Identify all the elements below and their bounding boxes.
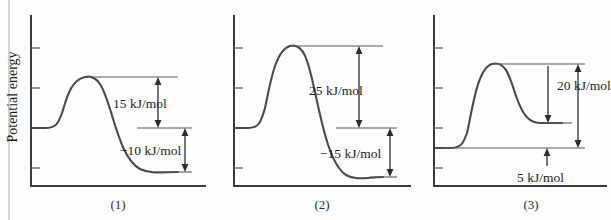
panel-3-activation-arrowhead-down [575, 140, 582, 148]
panel-2-delta-arrowhead-up [387, 128, 394, 136]
panel-1-activation-arrowhead-down [155, 120, 162, 128]
energy-diagram-svg: Potential energy 15 kJ/mol [0, 0, 611, 220]
panel-2-delta-arrowhead-down [387, 169, 394, 177]
panel-3-activation-arrowhead-up [575, 64, 582, 72]
panel-3: 20 kJ/mol 5 kJ/mol (3) [434, 16, 611, 212]
panel-3-activation-label: 20 kJ/mol [557, 78, 611, 93]
panel-1-caption: (1) [110, 197, 125, 212]
panel-3-axes [434, 16, 606, 186]
panel-3-caption: (3) [523, 197, 538, 212]
panel-1-delta-arrowhead-up [182, 128, 189, 136]
panel-1-activation-label: 15 kJ/mol [113, 96, 167, 111]
panel-1-delta-label: −10 kJ/mol [120, 143, 181, 158]
energy-profile-figure: Potential energy 15 kJ/mol [0, 0, 611, 220]
panel-2-caption: (2) [314, 197, 329, 212]
panel-1-activation-arrowhead-up [155, 77, 162, 85]
panel-1-delta-arrowhead-down [182, 164, 189, 172]
panel-3-delta-arrowhead-up [544, 148, 551, 156]
panel-1: 15 kJ/mol −10 kJ/mol (1) [31, 16, 205, 212]
y-axis-label: Potential energy [5, 51, 20, 142]
panel-2-activation-arrowhead-up [356, 46, 363, 54]
panel-3-inner-arrowhead-down [545, 115, 552, 123]
panel-3-curve [435, 63, 562, 148]
panel-1-curve [32, 77, 178, 173]
panel-2-delta-label: −15 kJ/mol [320, 146, 381, 161]
panel-2-activation-arrowhead-down [356, 120, 363, 128]
panel-2: 25 kJ/mol −15 kJ/mol (2) [234, 16, 410, 212]
panel-2-activation-label: 25 kJ/mol [309, 83, 363, 98]
panel-3-delta-label: 5 kJ/mol [517, 170, 564, 185]
